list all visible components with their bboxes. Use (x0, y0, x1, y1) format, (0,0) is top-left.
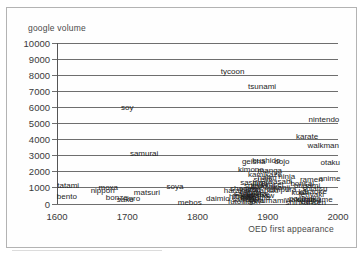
point-label-karate: karate (296, 133, 318, 141)
x-tick-label: 1900 (248, 212, 288, 221)
y-tick-label: 3000 (16, 151, 50, 160)
point-label-kanji: kanji (274, 184, 290, 192)
y-tick-label: 0 (16, 200, 50, 209)
y-tick-label: 8000 (16, 71, 50, 80)
y-tick-label: 7000 (16, 87, 50, 96)
point-label-samurai: samurai (130, 150, 158, 158)
point-label-edamame: edamame (297, 196, 333, 204)
point-label-tycoon: tycoon (221, 68, 245, 76)
gridline (52, 59, 338, 60)
gridline (52, 75, 338, 76)
point-label-matsuri: matsuri (134, 189, 160, 197)
x-axis-title: OED first appearance (248, 224, 334, 234)
y-tick-label: 1000 (16, 183, 50, 192)
point-label-soya: soya (167, 183, 184, 191)
point-label-shiatsu: shiatsu (302, 185, 327, 193)
y-tick-label: 4000 (16, 135, 50, 144)
point-label-daimio: daimio (206, 195, 230, 203)
x-tick-label: 1800 (178, 212, 218, 221)
point-label-tatami: tatami (57, 182, 79, 190)
y-tick-label: 2000 (16, 167, 50, 176)
caption-rule-line (12, 250, 162, 251)
x-tick-label: 1600 (37, 212, 77, 221)
y-tick-label: 9000 (16, 55, 50, 64)
y-tick-label: 6000 (16, 103, 50, 112)
y-tick-label: 5000 (16, 119, 50, 128)
gridline (52, 123, 338, 124)
point-label-walkman: walkman (307, 142, 339, 150)
gridline (52, 91, 338, 92)
x-tick-label: 1700 (107, 212, 147, 221)
gridline (52, 155, 338, 156)
point-label-nintendo: nintendo (309, 116, 340, 124)
point-label-mebos: mebos (178, 199, 202, 207)
point-label-bento: bento (57, 193, 77, 201)
point-label-dojo: dojo (274, 158, 289, 166)
gridline (52, 43, 338, 44)
gridline (52, 107, 338, 108)
y-tick-label: 10000 (16, 39, 50, 48)
point-label-soy: soy (121, 104, 133, 112)
point-label-anime: anime (319, 175, 341, 183)
x-tick-label: 2000 (318, 212, 358, 221)
point-label-otaku: otaku (320, 159, 340, 167)
y-axis-title: google volume (28, 23, 86, 33)
point-label-tsunami: tsunami (248, 83, 276, 91)
point-label-umami: umami (261, 197, 285, 205)
